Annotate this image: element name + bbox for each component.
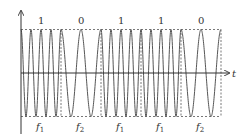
fsk-diagram: t 10110 f1f2f1f1f2 (0, 0, 249, 138)
fsk-waveform-plot: t 10110 f1f2f1f1f2 (0, 0, 249, 138)
bit-label: 0 (78, 15, 84, 26)
bit-labels: 10110 (38, 15, 204, 26)
bit-label: 1 (118, 15, 124, 26)
frequency-label: f1 (155, 121, 164, 134)
frequency-label: f1 (115, 121, 124, 134)
frequency-label: f1 (35, 121, 44, 134)
bit-label: 1 (38, 15, 44, 26)
frequency-label: f2 (195, 121, 204, 134)
frequency-labels: f1f2f1f1f2 (35, 121, 204, 134)
frequency-label: f2 (75, 121, 84, 134)
bit-label: 1 (158, 15, 164, 26)
time-axis-label: t (232, 68, 237, 79)
bit-label: 0 (198, 15, 204, 26)
